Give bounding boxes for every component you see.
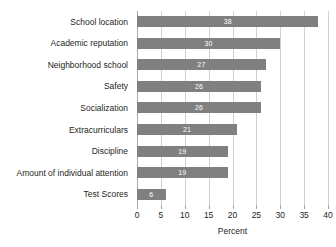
bar[interactable]: 26 <box>137 81 261 92</box>
bar-value-label: 38 <box>224 18 232 25</box>
x-tick-mark <box>280 205 281 209</box>
bar-value-label: 27 <box>197 61 205 68</box>
x-tick-label: 15 <box>204 210 213 220</box>
x-tick-label: 25 <box>252 210 261 220</box>
bar[interactable]: 38 <box>137 16 318 27</box>
bar-row: 27 <box>137 54 328 76</box>
x-tick-mark <box>256 205 257 209</box>
bar-value-label: 26 <box>195 104 203 111</box>
bar-row: 6 <box>137 183 328 205</box>
x-tick-label: 0 <box>135 210 140 220</box>
bar[interactable]: 26 <box>137 102 261 113</box>
x-tick-mark <box>137 205 138 209</box>
category-label: Neighborhood school <box>0 54 132 76</box>
x-tick-label: 20 <box>228 210 237 220</box>
x-tick-mark <box>209 205 210 209</box>
bar-value-label: 19 <box>178 148 186 155</box>
bar-row: 19 <box>137 162 328 184</box>
x-axis-title: Percent <box>137 226 328 236</box>
category-label: Discipline <box>0 140 132 162</box>
bar-row: 19 <box>137 140 328 162</box>
chart-title <box>0 0 336 3</box>
bar-value-label: 26 <box>195 83 203 90</box>
x-tick-mark <box>233 205 234 209</box>
bar-value-label: 21 <box>183 126 191 133</box>
category-label: Safety <box>0 76 132 98</box>
x-tick-label: 35 <box>299 210 308 220</box>
x-tick-mark <box>304 205 305 209</box>
bar-value-label: 19 <box>178 169 186 176</box>
category-label: Extracurriculars <box>0 119 132 141</box>
bar-row: 26 <box>137 97 328 119</box>
plot-area: 38302726262119196 <box>137 11 328 205</box>
bar-value-label: 30 <box>205 40 213 47</box>
x-tick-mark <box>161 205 162 209</box>
bar-row: 38 <box>137 11 328 33</box>
x-tick-label: 10 <box>180 210 189 220</box>
x-tick-mark <box>185 205 186 209</box>
category-label: Academic reputation <box>0 33 132 55</box>
bars-layer: 38302726262119196 <box>137 11 328 205</box>
bar-row: 26 <box>137 76 328 98</box>
category-label: School location <box>0 11 132 33</box>
gridline-40 <box>328 11 329 205</box>
bar[interactable]: 19 <box>137 167 228 178</box>
category-axis-labels: School locationAcademic reputationNeighb… <box>0 11 132 205</box>
x-axis: 0510152025303540 <box>137 205 328 223</box>
bar[interactable]: 19 <box>137 146 228 157</box>
x-tick-label: 40 <box>323 210 332 220</box>
bar-chart: School locationAcademic reputationNeighb… <box>0 0 336 247</box>
bar[interactable]: 30 <box>137 38 280 49</box>
x-tick-mark <box>328 205 329 209</box>
x-tick-label: 30 <box>276 210 285 220</box>
bar[interactable]: 27 <box>137 59 266 70</box>
bar-row: 30 <box>137 33 328 55</box>
category-label: Amount of individual attention <box>0 162 132 184</box>
bar[interactable]: 21 <box>137 124 237 135</box>
x-tick-label: 5 <box>159 210 164 220</box>
bar[interactable]: 6 <box>137 189 166 200</box>
bar-row: 21 <box>137 119 328 141</box>
bar-value-label: 6 <box>149 191 153 198</box>
category-label: Test Scores <box>0 183 132 205</box>
category-label: Socialization <box>0 97 132 119</box>
